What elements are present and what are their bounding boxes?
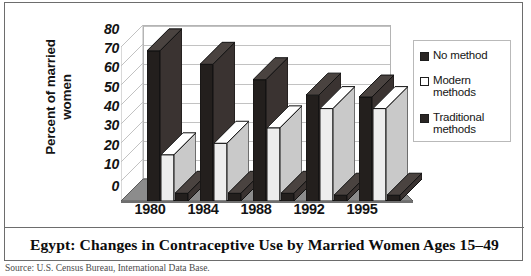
y-axis-title-line1: Percent of married (43, 39, 59, 155)
x-tick-label: 1988 (229, 201, 283, 217)
y-tick-label: 50 (89, 79, 119, 95)
y-tick-label: 70 (89, 40, 119, 56)
y-axis-title-line2: women (59, 74, 75, 120)
legend-swatch-icon (420, 114, 429, 123)
x-tick-label: 1984 (176, 201, 230, 217)
plot-area-3d (121, 25, 411, 201)
legend-item-traditional-methods: Traditional methods (420, 111, 510, 136)
x-tick-label: 1980 (123, 201, 177, 217)
bars-layer (121, 25, 411, 201)
y-tick-label: 40 (89, 98, 119, 114)
y-tick-label: 30 (89, 117, 119, 133)
figure-frame: Percent of married women 80 70 60 50 40 … (4, 2, 523, 261)
x-tick-label: 1992 (282, 201, 336, 217)
legend-label: Modern methods (433, 74, 510, 99)
y-tick-label: 0 (89, 178, 119, 194)
legend-label: No method (433, 49, 487, 62)
chart-screenshot: Percent of married women 80 70 60 50 40 … (0, 0, 531, 276)
plot-region: Percent of married women 80 70 60 50 40 … (5, 3, 524, 227)
legend-swatch-icon (420, 77, 429, 86)
legend-swatch-icon (420, 52, 429, 61)
legend-item-modern-methods: Modern methods (420, 74, 510, 99)
y-tick-label: 20 (89, 137, 119, 153)
y-tick-label: 10 (89, 156, 119, 172)
x-tick-label: 1995 (335, 201, 389, 217)
legend-label: Traditional methods (433, 111, 510, 136)
y-tick-label: 80 (89, 21, 119, 37)
legend-item-no-method: No method (420, 49, 510, 62)
chart-title: Egypt: Changes in Contraceptive Use by M… (5, 228, 524, 261)
y-tick-label: 60 (89, 59, 119, 75)
y-axis-title: Percent of married women (39, 17, 79, 177)
x-axis-tick-labels: 1980 1984 1988 1992 1995 (121, 201, 421, 223)
source-note: Source: U.S. Census Bureau, Internationa… (5, 263, 425, 273)
chart-legend: No method Modern methods Traditional met… (413, 40, 511, 142)
y-axis-tick-labels: 80 70 60 50 40 30 20 10 0 (89, 29, 119, 201)
